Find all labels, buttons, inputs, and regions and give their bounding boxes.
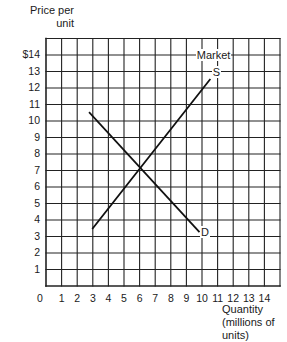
supply-demand-chart [0, 0, 287, 342]
y-tick-label: 10 [10, 114, 40, 126]
x-axis-label-line3: units) [222, 329, 275, 342]
chart-title: Market [196, 49, 232, 61]
y-tick-label: 4 [10, 213, 40, 225]
demand-curve-label: D [200, 226, 210, 238]
y-axis-label-line2: unit [8, 17, 74, 30]
y-tick-label: 8 [10, 147, 40, 159]
y-tick-label: 3 [10, 230, 40, 242]
x-axis-label: Quantity (millions of units) [222, 303, 275, 342]
y-tick-label: 5 [10, 197, 40, 209]
y-axis-label-line1: Price per [8, 4, 74, 17]
supply-curve-label: S [212, 66, 221, 78]
y-axis-label: Price per unit [8, 4, 74, 30]
y-tick-label: 13 [10, 65, 40, 77]
x-tick-label: 0 [30, 292, 50, 304]
y-tick-label: 7 [10, 164, 40, 176]
x-tick-label: 14 [254, 292, 274, 304]
x-axis-label-line2: (millions of [222, 316, 275, 329]
y-tick-label: 1 [10, 263, 40, 275]
chart-grid [46, 39, 280, 287]
y-tick-label: 9 [10, 131, 40, 143]
y-tick-label: 6 [10, 180, 40, 192]
y-tick-label: $14 [10, 48, 40, 60]
chart-lines [90, 80, 210, 232]
x-axis-label-line1: Quantity [222, 303, 275, 316]
y-tick-label: 11 [10, 98, 40, 110]
y-tick-label: 12 [10, 81, 40, 93]
y-tick-label: 2 [10, 246, 40, 258]
